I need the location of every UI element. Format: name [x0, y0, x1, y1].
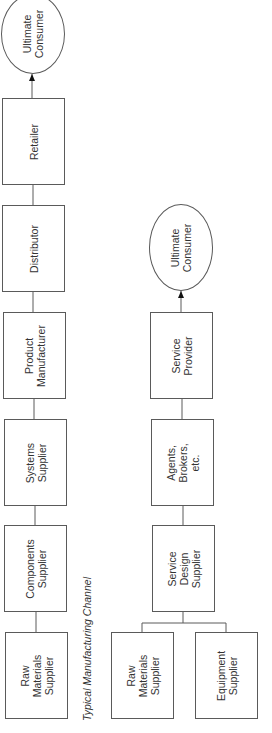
node-label: Retailer	[28, 123, 40, 159]
node-label: Ultimate Consumer	[21, 10, 45, 58]
node-equipment-supplier: Equipment Supplier	[195, 632, 258, 719]
node-label: Raw Materials Supplier	[19, 654, 55, 697]
node-agents-brokers: Agents, Brokers, etc.	[151, 419, 214, 506]
node-systems-supplier: Systems Supplier	[4, 419, 67, 506]
node-label: Service Design Supplier	[166, 549, 202, 588]
supply-channel-diagram: Ultimate Consumer Retailer Distributor P…	[0, 0, 272, 733]
node-distributor: Distributor	[2, 205, 65, 292]
node-label: Components Supplier	[24, 539, 48, 599]
node-label: Equipment Supplier	[215, 650, 239, 700]
node-label: Agents, Brokers, etc.	[165, 443, 201, 482]
node-label: Service Provider	[170, 336, 194, 375]
caption-typical-manufacturing-channel: Typical Manufacturing Channel	[81, 577, 93, 721]
node-raw-materials-supplier-service: Raw Materials Supplier	[111, 632, 174, 719]
node-retailer: Retailer	[2, 98, 65, 185]
node-label: Systems Supplier	[24, 442, 48, 482]
node-components-supplier: Components Supplier	[4, 525, 67, 612]
node-ultimate-consumer-service: Ultimate Consumer	[149, 204, 213, 291]
node-product-manufacturer: Product Manufacturer	[3, 312, 66, 399]
node-service-design-supplier: Service Design Supplier	[152, 525, 215, 612]
node-label: Distributor	[28, 225, 40, 273]
node-raw-materials-supplier-manufacturing: Raw Materials Supplier	[5, 632, 68, 719]
node-label: Product Manufacturer	[23, 325, 47, 387]
node-label: Ultimate Consumer	[169, 223, 193, 271]
node-service-provider: Service Provider	[150, 312, 213, 399]
node-label: Raw Materials Supplier	[125, 654, 161, 697]
